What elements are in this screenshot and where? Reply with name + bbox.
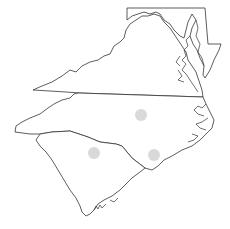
map-marker[interactable] <box>88 147 100 159</box>
map-marker[interactable] <box>135 109 147 121</box>
map-container <box>0 0 230 229</box>
map-svg <box>0 0 230 229</box>
map-marker[interactable] <box>148 149 160 161</box>
